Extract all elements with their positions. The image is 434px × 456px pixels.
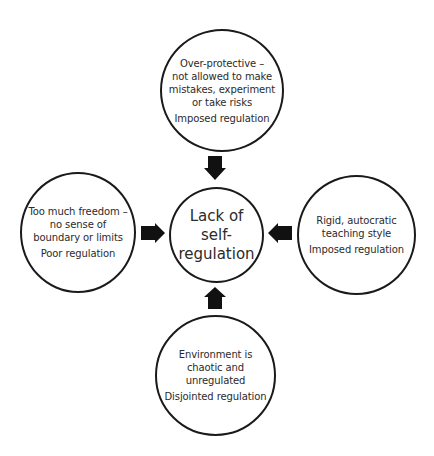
node-left-line: boundary or limits [28,231,127,244]
center-node-lack-of-self-regulation: Lack of self- regulation [169,187,264,283]
node-right-regulation: Imposed regulation [309,243,404,256]
node-left-line: Too much freedom – [28,205,127,218]
node-left-too-much-freedom: Too much freedom – no sense of boundary … [20,172,136,293]
arrow-left-icon [268,223,292,243]
node-right-rigid-autocratic: Rigid, autocratic teaching style Imposed… [297,175,416,295]
center-line: Lack of [178,207,254,226]
node-bottom-line: unregulated [179,374,253,387]
node-top-line: Over-protective – [169,57,275,70]
center-node-title: Lack of self- regulation [178,207,254,264]
node-bottom-description: Environment is chaotic and unregulated [179,348,253,387]
node-left-description: Too much freedom – no sense of boundary … [28,205,127,244]
node-top-regulation: Imposed regulation [174,112,269,125]
node-top-overprotective: Over-protective – not allowed to make mi… [160,29,284,152]
node-left-line: no sense of [28,218,127,231]
center-line: self- [178,226,254,245]
node-bottom-line: chaotic and [179,361,253,374]
node-right-line: teaching style [316,227,396,240]
node-left-regulation: Poor regulation [41,247,116,260]
node-right-description: Rigid, autocratic teaching style [316,214,396,240]
node-bottom-line: Environment is [179,348,253,361]
center-line: regulation [178,245,254,264]
node-top-line: or take risks [169,96,275,109]
arrow-up-icon [204,287,226,309]
node-top-line: mistakes, experiment [169,83,275,96]
arrow-right-icon [141,223,165,243]
node-bottom-chaotic-environment: Environment is chaotic and unregulated D… [155,315,276,436]
node-top-description: Over-protective – not allowed to make mi… [169,57,275,109]
node-bottom-regulation: Disjointed regulation [165,390,267,403]
node-top-line: not allowed to make [169,70,275,83]
node-right-line: Rigid, autocratic [316,214,396,227]
arrow-down-icon [204,156,226,180]
